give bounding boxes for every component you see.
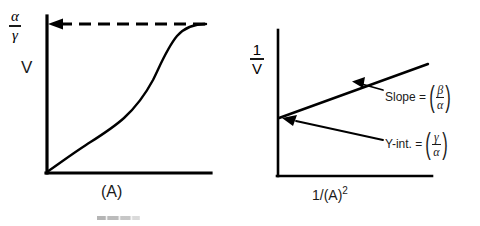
slope-numerator: β: [436, 84, 444, 96]
panel-b-x-axis-label: 1/(A)2: [312, 185, 348, 203]
panel-b-slope-annotation: Slope = ( β α ): [385, 82, 453, 112]
y-axis-label-denominator: V: [250, 61, 264, 76]
right-paren: ): [442, 129, 448, 159]
right-paren: ): [446, 82, 452, 112]
yintercept-denominator: α: [432, 146, 440, 158]
y-axis-label-numerator: 1: [250, 42, 264, 57]
left-paren: (: [429, 82, 435, 112]
panel-b-yintercept-annotation: Y-int. = ( γ α ): [385, 129, 450, 159]
panel-a-y-axis-label: V: [21, 58, 32, 78]
panel-a-asymptote-arrowhead: [48, 19, 63, 30]
asymptote-numerator: α: [9, 9, 21, 24]
panel-a-sigmoid-curve: [47, 24, 206, 172]
panel-a: [46, 16, 211, 173]
panel-b-yint-leader-line: [296, 121, 383, 140]
x-axis-label-base: 1/(A): [312, 187, 342, 203]
yintercept-fraction: γ α: [432, 131, 440, 158]
left-paren: (: [426, 129, 432, 159]
slope-label: Slope =: [385, 90, 426, 104]
yintercept-numerator: γ: [432, 131, 440, 143]
panel-b-y-axis-label: 1 V: [250, 42, 264, 76]
panel-a-caption: (A): [101, 183, 122, 201]
two-panel-kinetics-figure: [0, 0, 480, 226]
scan-artifact-clipped-text: [97, 216, 143, 220]
panel-b-slope-arrowhead: [352, 77, 365, 88]
panel-a-asymptote-label: α γ: [9, 9, 21, 43]
yintercept-label: Y-int. =: [385, 137, 422, 151]
x-axis-label-superscript: 2: [342, 185, 348, 196]
asymptote-denominator: γ: [9, 28, 21, 43]
slope-fraction: β α: [436, 84, 444, 111]
slope-denominator: α: [436, 99, 444, 111]
